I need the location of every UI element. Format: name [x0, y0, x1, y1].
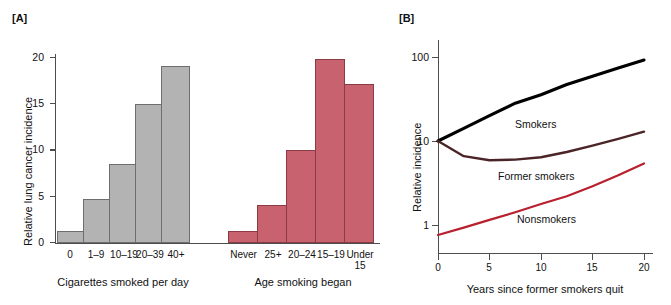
panel-a-x-tick-label-age-4: Under	[340, 249, 380, 260]
panel-b-x-tick-15	[592, 254, 593, 260]
curve-label-smokers: Smokers	[515, 118, 556, 130]
panel-a: [A] Relative lung cancer incidence 0 5 1…	[0, 0, 395, 305]
panel-b-y-tick-label-1: 1	[397, 219, 429, 231]
panel-b-y-tick-10	[432, 141, 438, 142]
panel-b-y-tick-label-10: 10	[397, 135, 429, 147]
panel-a-y-tick-0	[50, 242, 55, 243]
panel-a-y-tick-15	[50, 103, 55, 104]
bar-cigarettes-20-39	[135, 104, 162, 243]
panel-a-bar-group-age	[228, 54, 380, 243]
panel-b-label: [B]	[399, 12, 414, 24]
bar-cigarettes-10-19	[109, 164, 136, 243]
panel-a-x-axis-title-cigarettes: Cigarettes smoked per day	[48, 276, 198, 288]
panel-a-y-tick-5	[50, 196, 55, 197]
panel-b-y-tick-100	[432, 57, 438, 58]
panel-b-x-tick-5	[489, 254, 490, 260]
bar-age-25plus	[257, 205, 287, 242]
curve-former-smokers	[438, 132, 644, 161]
panel-b-y-tick-label-100: 100	[397, 51, 429, 63]
panel-b-y-tick-1	[432, 225, 438, 226]
panel-b-x-tick-label-5: 5	[474, 262, 504, 273]
curve-label-former-smokers: Former smokers	[498, 170, 574, 182]
panel-b-x-tick-label-10: 10	[526, 262, 556, 273]
panel-b-x-tick-label-0: 0	[423, 262, 453, 273]
panel-b-x-tick-0	[438, 254, 439, 260]
panel-b-x-tick-20	[644, 254, 645, 260]
panel-a-y-tick-label-20: 20	[14, 51, 44, 63]
panel-a-x-axis-title-age: Age smoking began	[228, 276, 378, 288]
bar-age-20-24	[286, 150, 316, 243]
panel-a-label: [A]	[12, 12, 27, 24]
panel-a-y-tick-10	[50, 149, 55, 150]
bar-cigarettes-40plus	[161, 66, 190, 243]
panel-b-x-tick-label-20: 20	[629, 262, 659, 273]
bar-cigarettes-0	[57, 231, 84, 242]
panel-a-y-tick-20	[50, 57, 55, 58]
panel-b-x-tick-label-15: 15	[577, 262, 607, 273]
figure-root: [A] Relative lung cancer incidence 0 5 1…	[0, 0, 671, 305]
panel-a-x-axis-line	[55, 243, 380, 244]
panel-a-y-axis-title: Relative lung cancer incidence	[22, 97, 34, 246]
panel-b-y-axis-line	[438, 40, 439, 254]
panel-a-y-tick-label-0: 0	[14, 236, 44, 248]
panel-a-bar-group-cigarettes	[57, 54, 190, 243]
panel-a-y-tick-label-10: 10	[14, 143, 44, 155]
panel-b-curves	[395, 0, 671, 305]
bar-age-15-19	[315, 59, 345, 242]
panel-a-x-tick-label-age-4-second-line: 15	[340, 260, 380, 271]
panel-b-x-axis-title: Years since former smokers quit	[455, 283, 635, 295]
panel-b-x-tick-10	[541, 254, 542, 260]
bar-cigarettes-1-9	[83, 199, 110, 243]
panel-b: [B] Relative incidence 1 10 100 0 5 10 1…	[395, 0, 671, 305]
panel-b-x-axis-line	[438, 253, 653, 254]
bar-age-under-15	[344, 84, 374, 242]
curve-label-nonsmokers: Nonsmokers	[517, 213, 576, 225]
panel-a-x-tick-label-cig-4: 40+	[158, 249, 194, 260]
panel-a-y-tick-label-15: 15	[14, 97, 44, 109]
bar-age-never	[228, 231, 258, 242]
panel-a-y-tick-label-5: 5	[14, 190, 44, 202]
